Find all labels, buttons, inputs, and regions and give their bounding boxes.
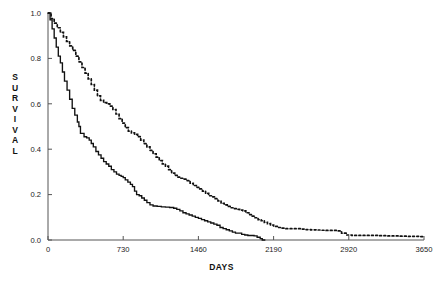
plot-area: 073014602190292036500.00.20.40.60.81.0 [0, 0, 443, 284]
solid-curve [48, 13, 265, 240]
x-axis-tick-label: 1460 [190, 245, 207, 254]
y-axis-label: S U R V I V A L [8, 72, 22, 156]
x-axis-tick-label: 2190 [265, 245, 282, 254]
y-axis-label-letter: A [12, 135, 18, 146]
curves-layer [48, 13, 424, 240]
y-axis-tick-label: 0.0 [30, 236, 41, 245]
y-axis-tick-label: 1.0 [30, 9, 41, 18]
x-axis-tick-label: 3650 [416, 245, 433, 254]
y-axis-tick-label: 0.4 [30, 145, 41, 154]
y-axis-tick-label: 0.8 [30, 54, 41, 63]
y-axis-tick-label: 0.2 [30, 190, 41, 199]
x-axis-tick-label: 0 [46, 245, 50, 254]
y-axis-label-letter: L [12, 146, 17, 157]
axes-layer: 073014602190292036500.00.20.40.60.81.0 [30, 9, 432, 254]
y-axis-label-letter: V [12, 104, 18, 115]
x-axis-label: DAYS [0, 262, 443, 272]
y-axis-tick-label: 0.6 [30, 100, 41, 109]
dotted-curve [48, 13, 424, 237]
survival-chart-figure: S U R V I V A L DAYS 0730146021902920365… [0, 0, 443, 284]
y-axis-label-letter: R [12, 93, 18, 104]
y-axis-label-letter: I [14, 114, 16, 125]
y-axis-label-letter: S [12, 72, 18, 83]
y-axis-label-letter: U [12, 83, 18, 94]
x-axis-tick-label: 730 [117, 245, 130, 254]
y-axis-label-letter: V [12, 125, 18, 136]
x-axis-tick-label: 2920 [340, 245, 357, 254]
